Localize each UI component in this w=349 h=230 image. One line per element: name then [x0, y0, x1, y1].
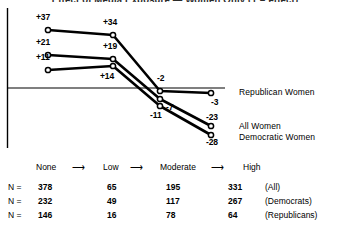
value-label-democratic-high: -28 [206, 138, 218, 147]
value-label-republican-high: -3 [211, 98, 218, 107]
cell-republicans-low: 16 [107, 208, 116, 222]
category-label-low: Low [103, 160, 119, 174]
arrow-icon-1: ⟶ [72, 160, 85, 174]
arrow-icon-3: ⟶ [211, 160, 224, 174]
point-all-moderate [157, 96, 162, 101]
category-axis: None ⟶ Low ⟶ Moderate ⟶ High [0, 160, 349, 174]
point-republican-low [110, 32, 115, 37]
plot-area: +37 +34 -2 -3 +21 +19 -7 -23 +11 +14 -11… [0, 8, 349, 148]
series-line-democratic-women [48, 66, 211, 135]
value-label-all-high: -23 [206, 113, 218, 122]
point-democratic-low [110, 63, 115, 68]
chart-title: Effect of Media Exposure — Women Only (1… [30, 0, 320, 2]
group-label-all: (All) [265, 180, 280, 194]
cell-republicans-high: 64 [228, 208, 237, 222]
value-label-republican-moderate: -2 [157, 74, 164, 83]
cell-all-high: 331 [228, 180, 242, 194]
point-democratic-moderate [157, 103, 162, 108]
value-label-republican-low: +34 [103, 18, 117, 27]
table-row: N = 378 65 195 331 (All) [0, 180, 349, 194]
cell-all-low: 65 [107, 180, 116, 194]
series-label-democratic-women: Democratic Women [239, 133, 315, 142]
cell-democrats-moderate: 117 [166, 194, 180, 208]
cell-democrats-high: 267 [228, 194, 242, 208]
value-label-all-none: +21 [36, 38, 50, 47]
point-republican-none [45, 27, 50, 32]
point-all-high [208, 123, 213, 128]
point-all-low [110, 56, 115, 61]
sample-size-table: N = 378 65 195 331 (All) N = 232 49 117 … [0, 180, 349, 222]
table-row: N = 232 49 117 267 (Democrats) [0, 194, 349, 208]
series-line-all-women [48, 55, 211, 126]
point-democratic-none [45, 67, 50, 72]
cell-democrats-none: 232 [38, 194, 52, 208]
group-label-democrats: (Democrats) [265, 194, 312, 208]
cell-republicans-moderate: 78 [166, 208, 175, 222]
category-label-none: None [36, 160, 56, 174]
value-label-democratic-low: +14 [100, 72, 114, 81]
plot-svg [0, 8, 349, 148]
row-label-democrats: N = [8, 194, 21, 208]
cell-all-none: 378 [38, 180, 52, 194]
value-label-all-low: +19 [103, 42, 117, 51]
value-label-democratic-moderate: -11 [150, 111, 162, 120]
value-label-democratic-none: +11 [36, 53, 50, 62]
cell-republicans-none: 146 [38, 208, 52, 222]
cell-all-moderate: 195 [166, 180, 180, 194]
category-label-high: High [243, 160, 260, 174]
point-republican-moderate [157, 88, 162, 93]
value-label-all-moderate: -7 [166, 103, 173, 112]
series-label-all-women: All Women [239, 122, 281, 131]
row-label-republicans: N = [8, 208, 21, 222]
table-row: N = 146 16 78 64 (Republicans) [0, 208, 349, 222]
category-label-moderate: Moderate [160, 160, 196, 174]
arrow-icon-2: ⟶ [130, 160, 143, 174]
cell-democrats-low: 49 [107, 194, 116, 208]
series-label-republican-women: Republican Women [239, 88, 315, 97]
series-line-republican-women [48, 30, 211, 93]
group-label-republicans: (Republicans) [265, 208, 317, 222]
point-republican-high [208, 90, 213, 95]
row-label-all: N = [8, 180, 21, 194]
value-label-republican-none: +37 [36, 13, 50, 22]
chart-figure: Effect of Media Exposure — Women Only (1… [0, 0, 349, 230]
